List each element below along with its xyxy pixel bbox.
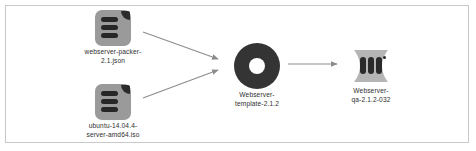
node-ubuntu-iso-label-line2: server-amd64.iso [58, 131, 168, 140]
node-packer-json-label-line1: webserver-packer- [58, 48, 168, 57]
file-line-3 [101, 33, 118, 38]
node-webserver-qa-label-line2: qa-2.1.2-032 [316, 96, 426, 105]
node-ubuntu-iso-label-line1: ubuntu-14.04.4- [58, 122, 168, 131]
node-packer-json-label-line2: 2.1.json [58, 57, 168, 66]
file-document-icon [95, 10, 131, 46]
node-webserver-template[interactable]: Webserver- template-2.1.2 [202, 43, 312, 108]
server-slot-1 [360, 57, 366, 74]
node-webserver-qa-label-line1: Webserver- [316, 87, 426, 96]
node-webserver-template-label-line1: Webserver- [202, 91, 312, 100]
node-ubuntu-iso[interactable]: ubuntu-14.04.4- server-amd64.iso [58, 84, 168, 139]
server-slot-3 [376, 57, 382, 74]
node-webserver-template-label-line2: template-2.1.2 [202, 100, 312, 109]
server-slot-2 [368, 57, 374, 74]
file-document-icon [95, 84, 131, 120]
disc-hole [249, 58, 265, 74]
disc-image-icon [234, 43, 280, 89]
file-line-1 [101, 17, 118, 22]
file-line-1 [101, 91, 118, 96]
diagram-canvas: webserver-packer- 2.1.json ubuntu-14.04.… [0, 0, 476, 151]
file-line-2 [101, 25, 118, 30]
node-webserver-qa[interactable]: Webserver- qa-2.1.2-032 [316, 47, 426, 104]
node-packer-json[interactable]: webserver-packer- 2.1.json [58, 10, 168, 65]
file-line-3 [101, 107, 118, 112]
file-line-2 [101, 99, 118, 104]
server-status-led-icon [383, 56, 386, 59]
server-vm-icon [349, 47, 393, 85]
